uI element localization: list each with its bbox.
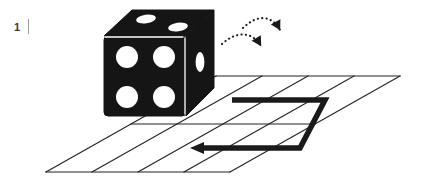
figure-illustration <box>0 0 423 189</box>
die-pip <box>153 46 175 68</box>
perspective-floor-grid <box>46 76 400 172</box>
die-front-face <box>104 36 186 116</box>
rolling-motion-arrows <box>222 18 280 46</box>
die-pip <box>196 52 205 72</box>
travel-path-arrowhead <box>190 142 204 154</box>
motion-arrow-upper <box>243 18 280 30</box>
die-travel-path <box>190 100 325 154</box>
motion-arrow-lower <box>222 34 261 46</box>
die <box>104 10 214 116</box>
die-pip <box>116 86 138 108</box>
figure-canvas: 1 <box>0 0 423 189</box>
die-right-pips <box>196 52 205 72</box>
die-pip <box>153 86 175 108</box>
die-pip <box>116 46 138 68</box>
